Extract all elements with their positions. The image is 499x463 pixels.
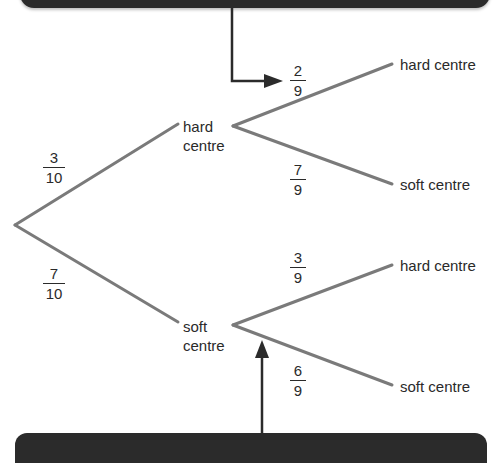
outcome-hard-soft: soft centre bbox=[400, 175, 470, 194]
node-hard-centre: hard centre bbox=[183, 117, 225, 155]
bottom-arrow-icon bbox=[255, 340, 269, 439]
outcome-hard-hard: hard centre bbox=[400, 55, 476, 74]
prob-soft: 7 10 bbox=[39, 265, 69, 302]
prob-soft-hard: 3 9 bbox=[283, 249, 313, 286]
top-arrow-icon bbox=[232, 8, 283, 88]
outcome-soft-hard: hard centre bbox=[400, 256, 476, 275]
prob-hard-hard: 2 9 bbox=[283, 62, 313, 99]
prob-soft-soft: 6 9 bbox=[283, 362, 313, 399]
prob-hard: 3 10 bbox=[39, 149, 69, 186]
node-soft-centre: soft centre bbox=[183, 317, 225, 355]
prob-hard-soft: 7 9 bbox=[283, 161, 313, 198]
outcome-soft-soft: soft centre bbox=[400, 377, 470, 396]
